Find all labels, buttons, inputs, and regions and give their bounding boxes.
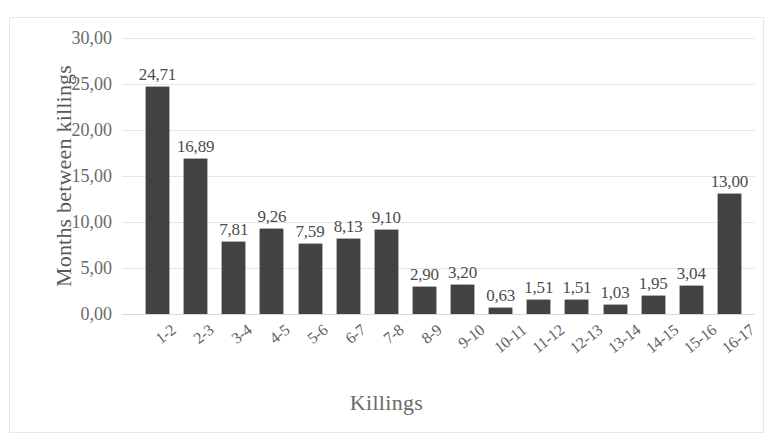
y-axis-tick-label: 30,00 — [32, 28, 112, 49]
bar-value-label: 7,59 — [296, 222, 325, 242]
bar-slot: 7,81 — [222, 38, 245, 314]
bar — [413, 287, 436, 314]
x-axis-tick-label: 12-13 — [567, 321, 606, 357]
x-axis-tick-labels: 1-22-33-44-55-66-77-88-99-1010-1111-1212… — [122, 315, 755, 375]
bar-value-label: 0,63 — [486, 286, 515, 306]
x-tick-slot: 16-17 — [718, 315, 741, 375]
bar-value-label: 1,95 — [639, 274, 668, 294]
chart-frame: Months between killings 0,005,0010,0015,… — [9, 17, 764, 433]
x-tick-slot: 6-7 — [337, 315, 360, 375]
x-axis-tick-label: 14-15 — [643, 321, 682, 357]
x-axis-tick-label: 16-17 — [719, 321, 758, 357]
x-tick-slot: 10-11 — [489, 315, 512, 375]
x-axis-tick-label: 7-8 — [380, 321, 407, 348]
bar-value-label: 1,51 — [524, 278, 553, 298]
bar-value-label: 8,13 — [334, 217, 363, 237]
x-axis-tick-label: 9-10 — [454, 321, 487, 353]
x-tick-slot: 3-4 — [222, 315, 245, 375]
bar — [375, 230, 398, 314]
bar — [337, 239, 360, 314]
x-axis-tick-label: 3-4 — [228, 321, 255, 348]
x-axis-tick-label: 8-9 — [418, 321, 445, 348]
bar — [146, 87, 169, 314]
x-axis-tick-label: 1-2 — [152, 321, 179, 348]
y-axis-tick-label: 25,00 — [32, 74, 112, 95]
bar-value-label: 1,03 — [601, 283, 630, 303]
bar-slot: 8,13 — [337, 38, 360, 314]
x-tick-slot: 9-10 — [451, 315, 474, 375]
x-tick-slot: 11-12 — [527, 315, 550, 375]
bar-series: 24,7116,897,819,267,598,139,102,903,200,… — [122, 38, 755, 314]
clipped-caption-above-chart — [10, 4, 773, 20]
bar-value-label: 3,04 — [677, 264, 706, 284]
x-axis-tick-label: 4-5 — [266, 321, 293, 348]
x-tick-slot: 12-13 — [565, 315, 588, 375]
x-tick-slot: 8-9 — [413, 315, 436, 375]
bar-value-label: 9,26 — [257, 207, 286, 227]
x-tick-slot: 14-15 — [642, 315, 665, 375]
bar — [451, 285, 474, 314]
x-tick-slot: 13-14 — [604, 315, 627, 375]
bar-value-label: 1,51 — [562, 278, 591, 298]
bar — [604, 305, 627, 314]
y-axis-tick-labels: 0,005,0010,0015,0020,0025,0030,00 — [32, 18, 112, 432]
x-axis-tick-label: 5-6 — [304, 321, 331, 348]
bar — [260, 229, 283, 314]
bar — [642, 296, 665, 314]
y-axis-tick-label: 15,00 — [32, 166, 112, 187]
bar-slot: 24,71 — [146, 38, 169, 314]
bar — [184, 159, 207, 314]
bar-slot: 3,20 — [451, 38, 474, 314]
bar-slot: 13,00 — [718, 38, 741, 314]
x-tick-slot: 7-8 — [375, 315, 398, 375]
bar-slot: 16,89 — [184, 38, 207, 314]
bar-value-label: 9,10 — [372, 208, 401, 228]
plot-area: 24,7116,897,819,267,598,139,102,903,200,… — [122, 38, 755, 314]
bar-value-label: 24,71 — [139, 65, 176, 85]
x-tick-slot: 1-2 — [146, 315, 169, 375]
bar-slot: 1,95 — [642, 38, 665, 314]
x-tick-slot: 2-3 — [184, 315, 207, 375]
x-tick-slot: 15-16 — [680, 315, 703, 375]
x-axis-tick-label: 10-11 — [490, 321, 529, 357]
y-axis-tick-label: 0,00 — [32, 304, 112, 325]
bar-value-label: 7,81 — [219, 220, 248, 240]
bar — [565, 300, 588, 314]
bar-slot: 2,90 — [413, 38, 436, 314]
x-axis-tick-label: 13-14 — [605, 321, 644, 357]
bar-value-label: 13,00 — [711, 172, 748, 192]
x-axis-tick-label: 2-3 — [190, 321, 217, 348]
x-tick-slot: 4-5 — [260, 315, 283, 375]
bar-slot: 9,26 — [260, 38, 283, 314]
bar-slot: 3,04 — [680, 38, 703, 314]
bar-slot: 9,10 — [375, 38, 398, 314]
x-axis-title: Killings — [10, 390, 763, 416]
bar — [222, 242, 245, 314]
bar — [299, 244, 322, 314]
bar — [718, 194, 741, 314]
bar-slot: 0,63 — [489, 38, 512, 314]
bar-slot: 7,59 — [299, 38, 322, 314]
y-axis-tick-label: 20,00 — [32, 120, 112, 141]
bar-slot: 1,03 — [604, 38, 627, 314]
x-axis-tick-label: 11-12 — [529, 321, 568, 357]
x-axis-tick-label: 6-7 — [342, 321, 369, 348]
bar-value-label: 16,89 — [177, 137, 214, 157]
bar-slot: 1,51 — [565, 38, 588, 314]
bar-value-label: 2,90 — [410, 265, 439, 285]
bar — [527, 300, 550, 314]
x-tick-slot: 5-6 — [299, 315, 322, 375]
y-axis-tick-label: 5,00 — [32, 258, 112, 279]
bar — [680, 286, 703, 314]
y-axis-tick-label: 10,00 — [32, 212, 112, 233]
bar-value-label: 3,20 — [448, 263, 477, 283]
bar-slot: 1,51 — [527, 38, 550, 314]
x-axis-tick-label: 15-16 — [681, 321, 720, 357]
